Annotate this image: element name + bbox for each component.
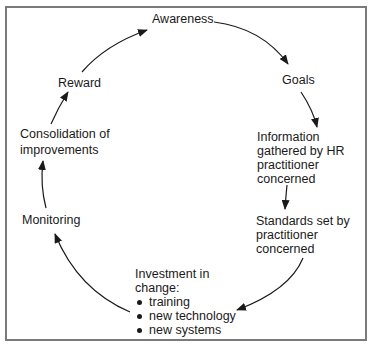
node-investment-line-2: change: — [135, 281, 236, 295]
node-information-line-4: concerned — [257, 172, 345, 186]
node-consolidation: Consolidation of improvements — [20, 126, 110, 158]
node-reward: Reward — [58, 76, 101, 90]
node-reward-text: Reward — [58, 76, 101, 90]
node-information-line-3: practitioner — [257, 158, 345, 172]
node-monitoring: Monitoring — [22, 213, 80, 227]
arrow-consolidation-to-reward — [51, 92, 68, 124]
node-consolidation-line-1: Consolidation of — [20, 126, 110, 142]
bullet-training: training — [135, 295, 236, 309]
node-standards: Standards set by practitioner concerned — [256, 214, 350, 256]
bullet-new-technology: new technology — [135, 309, 236, 323]
node-goals-text: Goals — [282, 73, 315, 87]
node-monitoring-text: Monitoring — [22, 213, 80, 227]
arrow-monitoring-to-consolidation — [42, 161, 46, 208]
node-standards-line-3: concerned — [256, 242, 350, 256]
arrow-reward-to-awareness — [82, 30, 147, 72]
bullet-new-systems: new systems — [135, 323, 236, 337]
node-standards-line-2: practitioner — [256, 228, 350, 242]
node-awareness: Awareness — [152, 12, 214, 26]
arrow-standards-to-investment — [237, 258, 303, 310]
arrow-information-to-standards — [285, 185, 287, 209]
node-investment: Investment in change: training new techn… — [135, 267, 236, 337]
node-awareness-text: Awareness — [152, 12, 214, 26]
node-information-line-2: gathered by HR — [257, 144, 345, 158]
investment-bullet-list: training new technology new systems — [135, 295, 236, 337]
node-information: Information gathered by HR practitioner … — [257, 130, 345, 186]
node-investment-line-1: Investment in — [135, 267, 236, 281]
node-standards-line-1: Standards set by — [256, 214, 350, 228]
arrow-goals-to-information — [301, 92, 317, 127]
node-consolidation-line-2: improvements — [20, 142, 110, 158]
arrow-investment-to-monitoring — [55, 234, 130, 312]
node-information-line-1: Information — [257, 130, 345, 144]
node-goals: Goals — [282, 73, 315, 87]
arrow-awareness-to-goals — [214, 22, 288, 64]
